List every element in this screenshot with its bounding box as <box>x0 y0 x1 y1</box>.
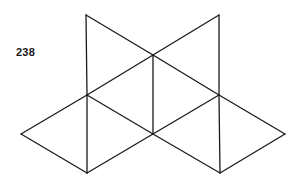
edge-AD <box>86 15 87 95</box>
net-edges <box>21 15 285 173</box>
edge-FJ <box>153 134 220 173</box>
edge-EF <box>153 95 219 134</box>
octahedron-net-diagram <box>0 0 303 189</box>
edge-BC <box>153 15 219 55</box>
edge-DG <box>21 95 87 134</box>
edge-EH <box>219 95 285 134</box>
edge-FI <box>87 134 153 173</box>
edge-EJ <box>219 95 220 173</box>
edge-AC <box>86 15 153 55</box>
edge-CE <box>153 55 219 95</box>
edge-CD <box>87 55 153 95</box>
edge-HJ <box>220 134 285 173</box>
edge-DF <box>87 95 153 134</box>
edge-GI <box>21 134 87 173</box>
